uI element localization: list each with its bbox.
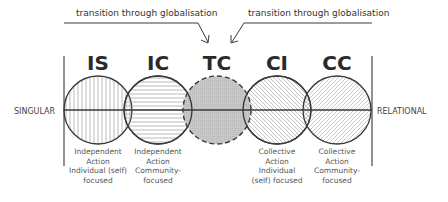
caption-cc-line: Community-	[302, 166, 372, 176]
caption-cc-line: focused	[302, 176, 372, 186]
right-transition-label: transition through globalisation	[248, 8, 389, 18]
left-transition-arrow	[64, 23, 209, 43]
caption-cc-line: Collective	[302, 147, 372, 157]
caption-ic-line: Independent	[123, 147, 193, 157]
label-ci: CI	[266, 51, 288, 75]
label-cc: CC	[322, 51, 351, 75]
caption-cc: Collective Action Community- focused	[302, 147, 372, 185]
left-transition-label: transition through globalisation	[76, 8, 217, 18]
right-transition-arrow	[231, 23, 372, 43]
caption-cc-line: Action	[302, 157, 372, 167]
relational-label: RELATIONAL	[377, 107, 427, 116]
singular-label: SINGULAR	[14, 107, 56, 116]
caption-ic-line: Action	[123, 157, 193, 167]
label-tc: TC	[203, 51, 231, 75]
label-ic: IC	[147, 51, 169, 75]
caption-ic-line: Community-	[123, 166, 193, 176]
caption-ic-line: focused	[123, 176, 193, 186]
caption-ic: Independent Action Community- focused	[123, 147, 193, 185]
label-is: IS	[87, 51, 109, 75]
